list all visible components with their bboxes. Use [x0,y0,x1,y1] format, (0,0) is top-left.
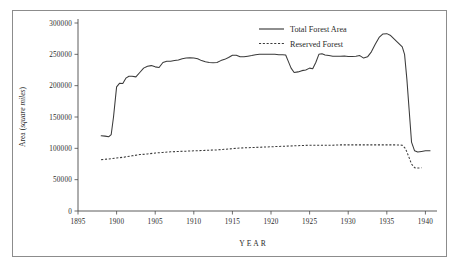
x-tick-label: 1895 [70,218,85,226]
line-chart: 050000100000150000200000250000300000 189… [13,11,446,256]
x-tick-label: 1905 [148,218,163,226]
series-line-2 [101,145,421,168]
y-axis: 050000100000150000200000250000300000 [49,19,78,216]
legend-label-2: Reserved Forest [290,40,344,49]
y-axis-title: Area (square miles) [18,87,27,148]
y-tick-label: 0 [68,208,72,216]
data-series-group [101,34,430,168]
x-tick-label: 1920 [263,218,278,226]
x-tick-label: 1915 [225,218,240,226]
x-tick-label: 1935 [379,218,394,226]
chart-frame: 050000100000150000200000250000300000 189… [12,10,447,257]
y-tick-label: 50000 [53,176,72,184]
series-line-1 [101,34,430,152]
figure-container: 050000100000150000200000250000300000 189… [0,0,457,268]
y-tick-label: 200000 [49,82,72,90]
x-tick-label: 1940 [418,218,433,226]
y-tick-label: 250000 [49,51,72,59]
y-tick-label: 300000 [49,20,72,28]
x-axis: 1895190019051910191519201925193019351940 [70,211,437,226]
x-tick-label: 1930 [341,218,356,226]
y-tick-label: 100000 [49,145,72,153]
x-tick-label: 1925 [302,218,317,226]
chart-legend: Total Forest AreaReserved Forest [259,25,347,49]
x-tick-label: 1910 [186,218,201,226]
legend-label-1: Total Forest Area [290,25,347,34]
x-axis-title: YEAR [239,239,267,248]
y-tick-label: 150000 [49,114,72,122]
x-tick-label: 1900 [109,218,124,226]
